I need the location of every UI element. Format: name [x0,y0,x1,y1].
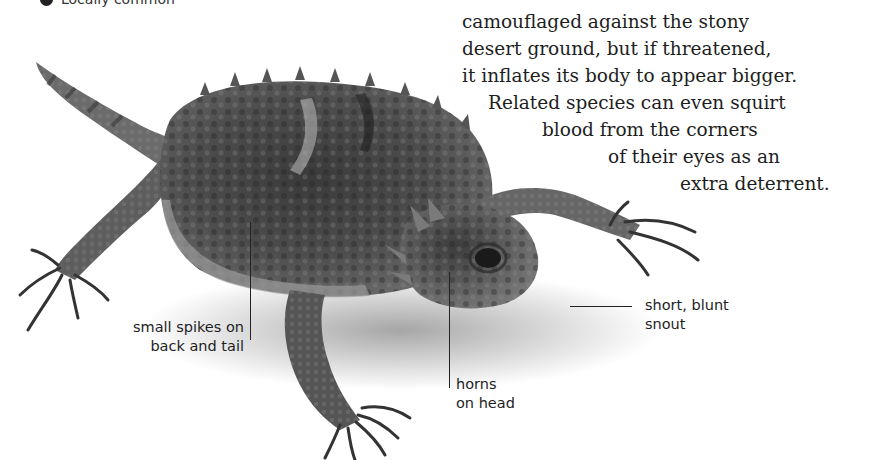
callout-snout-line: snout [645,315,729,334]
description-line: of their eyes as an [462,143,862,170]
description-line: blood from the corners [462,116,862,143]
snout-leader-line [570,306,632,307]
description-line: desert ground, but if threatened, [462,35,862,62]
description-line: it inflates its body to appear bigger. [462,62,862,89]
spikes-leader-line [250,222,251,340]
horns-leader-line [449,272,450,388]
callout-horns-line: on head [456,394,515,413]
callout-spikes: small spikes on back and tail [100,318,244,356]
callout-spikes-line: back and tail [100,337,244,356]
callout-horns: horns on head [456,375,515,413]
callout-snout-line: short, blunt [645,296,729,315]
callout-spikes-line: small spikes on [100,318,244,337]
callout-horns-line: horns [456,375,515,394]
description-line: Related species can even squirt [462,89,862,116]
description-line: extra deterrent. [462,170,862,197]
callout-snout: short, blunt snout [645,296,729,334]
species-description: camouflaged against the stony desert gro… [462,8,862,197]
description-line: camouflaged against the stony [462,8,862,35]
